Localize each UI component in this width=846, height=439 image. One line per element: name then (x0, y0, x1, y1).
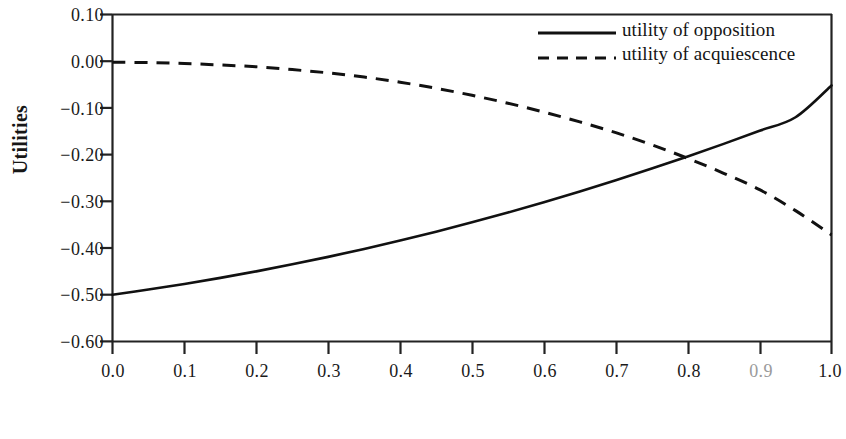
x-tick-label: 1.0 (800, 362, 846, 380)
x-tick-label: 0.4 (371, 362, 431, 380)
x-tick-label: 0.0 (83, 362, 143, 380)
x-tick-label: 0.1 (155, 362, 215, 380)
line-utility-of-acquiescence (113, 62, 832, 235)
y-tick-label: −0.40 (28, 240, 104, 258)
line-utility-of-opposition (113, 85, 832, 294)
y-tick-label: −0.60 (28, 333, 104, 351)
y-tick-label: −0.30 (28, 193, 104, 211)
x-tick-label: 0.9 (731, 362, 791, 380)
x-tick-label: 0.7 (587, 362, 647, 380)
legend: utility of opposition utility of acquies… (622, 18, 837, 66)
y-tick-label: 0.10 (28, 6, 104, 24)
y-tick-label: −0.20 (28, 146, 104, 164)
x-tick-label: 0.6 (515, 362, 575, 380)
legend-label-acquiescence: utility of acquiescence (622, 42, 837, 66)
y-tick-label: −0.10 (28, 100, 104, 118)
x-tick-marks (113, 341, 832, 354)
x-tick-label: 0.8 (659, 362, 719, 380)
x-tick-label: 0.3 (299, 362, 359, 380)
x-tick-label: 0.2 (227, 362, 287, 380)
y-tick-label: −0.50 (28, 286, 104, 304)
y-tick-label: 0.00 (28, 53, 104, 71)
y-tick-label-group: 0.10 0.00 −0.10 −0.20 −0.30 −0.40 −0.50 … (28, 0, 104, 360)
legend-label-opposition: utility of opposition (622, 18, 837, 42)
x-tick-label: 0.5 (443, 362, 503, 380)
